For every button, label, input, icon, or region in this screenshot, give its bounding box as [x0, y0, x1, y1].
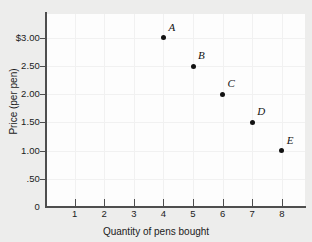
- y-tick-mark: [40, 94, 46, 95]
- gridline-horizontal: [46, 179, 305, 180]
- y-tick-mark: [40, 151, 46, 152]
- x-tick-label: 1: [65, 208, 85, 219]
- y-tick-mark: [40, 66, 46, 67]
- x-tick-label: 5: [183, 208, 203, 219]
- x-axis-title: Quantity of pens bought: [0, 226, 312, 237]
- y-tick-label: $3.00: [16, 32, 40, 43]
- x-tick-label: 6: [213, 208, 233, 219]
- data-point-label: E: [287, 134, 294, 146]
- data-point[interactable]: [220, 92, 225, 97]
- x-tick-label: 3: [124, 208, 144, 219]
- gridline-horizontal: [46, 94, 305, 95]
- x-tick-mark: [252, 199, 253, 206]
- x-tick-label: 7: [242, 208, 262, 219]
- gridline-horizontal: [46, 151, 305, 152]
- x-tick-mark: [282, 199, 283, 206]
- x-tick-mark: [163, 199, 164, 206]
- x-tick-label: 4: [153, 208, 173, 219]
- y-tick-label: 0: [35, 201, 40, 212]
- gridline-horizontal: [46, 38, 305, 39]
- y-tick-label: 2.50: [21, 60, 40, 71]
- x-tick-mark: [104, 199, 105, 206]
- data-point-label: A: [168, 21, 175, 33]
- gridline-horizontal: [46, 122, 305, 123]
- x-tick-mark: [193, 199, 194, 206]
- y-tick-mark: [40, 122, 46, 123]
- scatter-chart: $3.002.502.001.501.00.500 12345678 ABCDE…: [0, 0, 312, 242]
- y-tick-label: 1.00: [21, 145, 40, 156]
- y-tick-mark: [40, 179, 46, 180]
- data-point-label: C: [228, 77, 235, 89]
- y-tick-mark: [40, 38, 46, 39]
- x-tick-mark: [75, 199, 76, 206]
- y-tick-label: 2.00: [21, 88, 40, 99]
- x-tick-label: 8: [272, 208, 292, 219]
- y-tick-label: 1.50: [21, 116, 40, 127]
- plot-area: [46, 14, 305, 207]
- data-point[interactable]: [250, 120, 255, 125]
- y-tick-label: .50: [26, 173, 40, 184]
- data-point-label: D: [257, 105, 265, 117]
- gridline-horizontal: [46, 66, 305, 67]
- y-axis-title: Price (per pen): [8, 42, 19, 162]
- data-point[interactable]: [191, 64, 196, 69]
- x-tick-label: 2: [94, 208, 114, 219]
- data-point-label: B: [198, 49, 205, 61]
- x-tick-mark: [134, 199, 135, 206]
- x-tick-mark: [223, 199, 224, 206]
